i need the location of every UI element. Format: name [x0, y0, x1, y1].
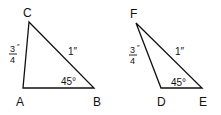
angle-b-measure: 45° [61, 76, 76, 87]
side-cb-length: 1″ [68, 46, 78, 57]
vertex-label-f: F [130, 7, 137, 21]
triangle-abc [23, 22, 94, 88]
svg-text:4: 4 [130, 56, 135, 66]
vertex-label-c: C [23, 6, 32, 20]
svg-text:″: ″ [17, 43, 20, 50]
svg-text:3: 3 [130, 45, 135, 55]
side-fe-length: 1″ [175, 46, 185, 57]
svg-text:4: 4 [10, 55, 15, 65]
triangles-diagram: C A B 3 4 ″ 1″ 45° F D E 3 4 ″ 1″ 45° [0, 0, 221, 115]
vertex-label-d: D [157, 95, 166, 109]
vertex-label-b: B [93, 95, 101, 109]
vertex-label-a: A [16, 95, 24, 109]
side-fd-length: 3 4 ″ [129, 44, 140, 66]
svg-text:3: 3 [10, 44, 15, 54]
svg-text:″: ″ [137, 44, 140, 51]
side-ac-length: 3 4 ″ [9, 43, 20, 65]
triangle-def [136, 23, 202, 88]
vertex-label-e: E [199, 95, 207, 109]
angle-e-measure: 45° [171, 77, 186, 88]
